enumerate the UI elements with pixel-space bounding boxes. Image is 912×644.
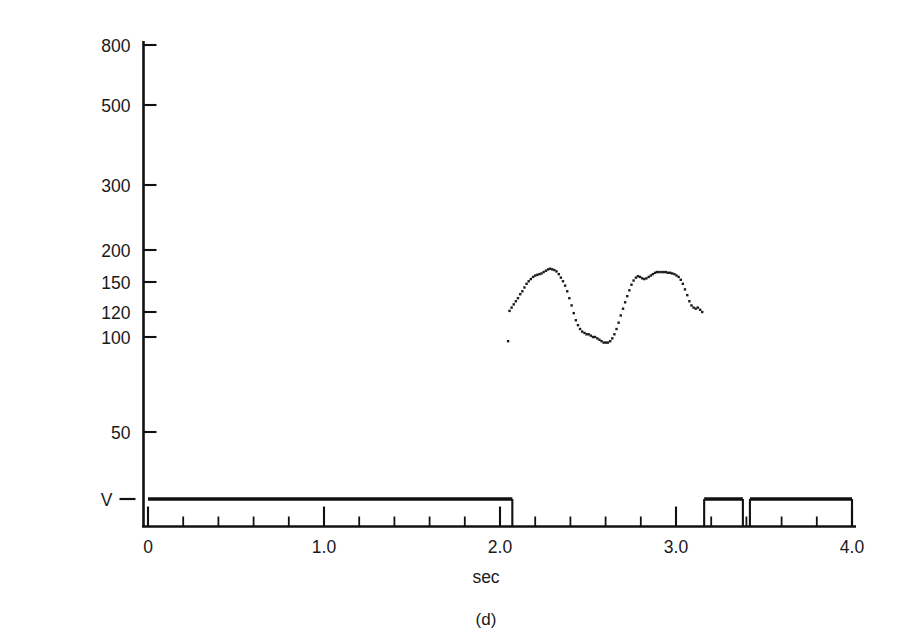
fx-data-point [585, 333, 587, 335]
y-tick-label-100: 100 [101, 328, 130, 348]
axes-group [142, 41, 856, 527]
y-axis-tick-labels: 80050030020015012010050 [101, 36, 130, 443]
fx-data-point [620, 314, 622, 316]
fx-data-point [540, 272, 542, 274]
fx-data-point [594, 336, 596, 338]
y-axis-ticks [144, 45, 157, 432]
fx-data-point [558, 273, 560, 275]
y-tick-label-800: 800 [101, 36, 130, 56]
fx-data-point [665, 271, 667, 273]
y-tick-label-50: 50 [111, 423, 131, 443]
fx-data-point [622, 307, 624, 309]
fx-data-point [542, 271, 544, 273]
fx-data-point [513, 303, 515, 305]
fx-data-point [684, 288, 686, 290]
fx-data-point [650, 274, 652, 276]
fx-data-point [510, 306, 512, 308]
fx-data-point [570, 304, 572, 306]
fx-data-point [637, 275, 639, 277]
fx-data-point [527, 280, 529, 282]
fx-data-point [669, 272, 671, 274]
fx-data-point [699, 309, 701, 311]
fx-data-point [515, 300, 517, 302]
fx-data-point [523, 286, 525, 288]
fx-data-point [590, 334, 592, 336]
fx-data-point [607, 341, 609, 343]
fx-data-point [579, 328, 581, 330]
fx-data-point [519, 293, 521, 295]
fx-data-point [613, 333, 615, 335]
fx-data-point [521, 290, 523, 292]
panel-label: (d) [476, 610, 497, 629]
fx-data-point [581, 330, 583, 332]
fx-data-point [632, 279, 634, 281]
fx-data-point [671, 272, 673, 274]
fx-data-point [680, 279, 682, 281]
fx-data-point [602, 341, 604, 343]
fx-data-point [628, 289, 630, 291]
fx-contour-trace [507, 268, 704, 344]
fx-data-point [600, 340, 602, 342]
fx-data-point [562, 280, 564, 282]
fx-data-point [507, 340, 509, 342]
fx-data-point [547, 268, 549, 270]
fx-data-point [564, 284, 566, 286]
fx-data-point [553, 269, 555, 271]
fx-data-point [530, 278, 532, 280]
fx-data-point [667, 272, 669, 274]
fx-data-point [538, 273, 540, 275]
fx-data-point [592, 336, 594, 338]
fx-data-point [635, 276, 637, 278]
fx-data-point [617, 321, 619, 323]
fx-contour-chart: 80050030020015012010050 01.02.03.04.0 V … [0, 0, 912, 644]
voicing-label-dash: V [101, 490, 136, 510]
y-tick-label-150: 150 [101, 273, 130, 293]
fx-data-point [697, 306, 699, 308]
fx-data-point [648, 276, 650, 278]
fx-data-point [656, 271, 658, 273]
fx-data-point [566, 290, 568, 292]
x-axis-tick-labels: 01.02.03.04.0 [143, 537, 864, 557]
fx-data-point [630, 284, 632, 286]
fx-data-point [609, 340, 611, 342]
fx-data-point [525, 283, 527, 285]
fx-data-point [641, 277, 643, 279]
fx-data-point [596, 337, 598, 339]
fx-data-point [573, 312, 575, 314]
fx-data-point [686, 294, 688, 296]
y-tick-label-500: 500 [101, 96, 130, 116]
x-tick-label-4.0: 4.0 [840, 537, 865, 557]
x-tick-label-3.0: 3.0 [664, 537, 689, 557]
fx-data-point [588, 333, 590, 335]
fx-data-point [551, 268, 553, 270]
fx-data-point [677, 276, 679, 278]
fx-data-point [688, 300, 690, 302]
fx-data-point [692, 306, 694, 308]
x-tick-label-1.0: 1.0 [312, 537, 337, 557]
y-tick-label-120: 120 [101, 303, 130, 323]
fx-data-point [662, 271, 664, 273]
fx-data-point [508, 310, 510, 312]
y-tick-label-300: 300 [101, 176, 130, 196]
x-axis-title: sec [472, 567, 499, 587]
fx-data-point [654, 272, 656, 274]
fx-data-point [690, 304, 692, 306]
fx-data-point [652, 273, 654, 275]
fx-data-point [545, 270, 547, 272]
fx-data-point [626, 295, 628, 297]
fx-data-point [643, 278, 645, 280]
fx-data-point [598, 339, 600, 341]
figure-panel-d: 80050030020015012010050 01.02.03.04.0 V … [0, 0, 912, 644]
fx-data-point [682, 283, 684, 285]
fx-data-point [534, 274, 536, 276]
fx-data-point [611, 337, 613, 339]
fx-data-point [555, 270, 557, 272]
fx-data-point [517, 297, 519, 299]
fx-data-point [536, 274, 538, 276]
fx-data-point [645, 277, 647, 279]
fx-data-point [532, 276, 534, 278]
fx-data-point [658, 271, 660, 273]
fx-data-point [639, 276, 641, 278]
fx-data-point [660, 271, 662, 273]
fx-data-point [615, 328, 617, 330]
